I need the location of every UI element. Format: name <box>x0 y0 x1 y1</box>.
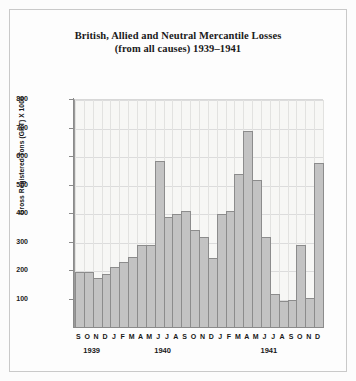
y-tick-label: 500 <box>0 181 28 188</box>
chart-page: British, Allied and Neutral Mercantile L… <box>0 0 356 381</box>
y-tick-label: 800 <box>0 95 28 102</box>
y-tick-mark <box>69 242 74 243</box>
y-tick-label: 600 <box>0 152 28 159</box>
y-tick-mark <box>69 128 74 129</box>
x-axis-year-label: 1940 <box>143 346 183 355</box>
y-tick-mark <box>69 99 74 100</box>
y-tick-label: 700 <box>0 124 28 131</box>
chart-title-line1: British, Allied and Neutral Mercantile L… <box>0 29 356 42</box>
chart-title-line2: (from all causes) 1939–1941 <box>0 42 356 55</box>
y-tick-mark <box>69 270 74 271</box>
bar <box>314 163 324 328</box>
y-tick-mark <box>69 213 74 214</box>
y-tick-label: 400 <box>0 209 28 216</box>
y-tick-mark <box>69 156 74 157</box>
y-tick-label: 100 <box>0 295 28 302</box>
x-axis-year-label: 1941 <box>249 346 289 355</box>
x-tick-label: D <box>311 333 325 340</box>
y-tick-label: 300 <box>0 238 28 245</box>
x-axis-line <box>74 327 323 328</box>
plot-area <box>74 99 323 328</box>
chart-title: British, Allied and Neutral Mercantile L… <box>0 29 356 55</box>
bar-series <box>75 100 323 328</box>
y-tick-mark <box>69 299 74 300</box>
y-tick-label: 200 <box>0 266 28 273</box>
x-axis-year-label: 1939 <box>72 346 112 355</box>
y-tick-mark <box>69 185 74 186</box>
